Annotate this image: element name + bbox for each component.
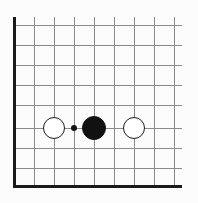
grid-line-horizontal bbox=[14, 105, 182, 106]
grid-line-horizontal bbox=[14, 45, 182, 46]
board-edge-left bbox=[13, 17, 16, 188]
grid-line-horizontal bbox=[14, 25, 182, 26]
grid-line-horizontal bbox=[14, 65, 182, 66]
white-stone bbox=[43, 117, 65, 139]
black-stone bbox=[82, 116, 106, 140]
grid-line-horizontal bbox=[14, 168, 182, 169]
grid-line-vertical bbox=[114, 17, 115, 185]
grid-line-vertical bbox=[174, 17, 175, 185]
grid-line-vertical bbox=[74, 17, 75, 185]
board-surface bbox=[0, 0, 198, 203]
white-stone bbox=[123, 117, 145, 139]
go-board-diagram bbox=[0, 0, 198, 203]
grid-line-horizontal bbox=[14, 148, 182, 149]
board-edge-bottom bbox=[13, 185, 182, 188]
grid-line-vertical bbox=[94, 17, 95, 185]
grid-line-vertical bbox=[34, 17, 35, 185]
grid-line-vertical bbox=[134, 17, 135, 185]
grid-line-vertical bbox=[154, 17, 155, 185]
grid-line-horizontal bbox=[14, 85, 182, 86]
grid-line-vertical bbox=[54, 17, 55, 185]
